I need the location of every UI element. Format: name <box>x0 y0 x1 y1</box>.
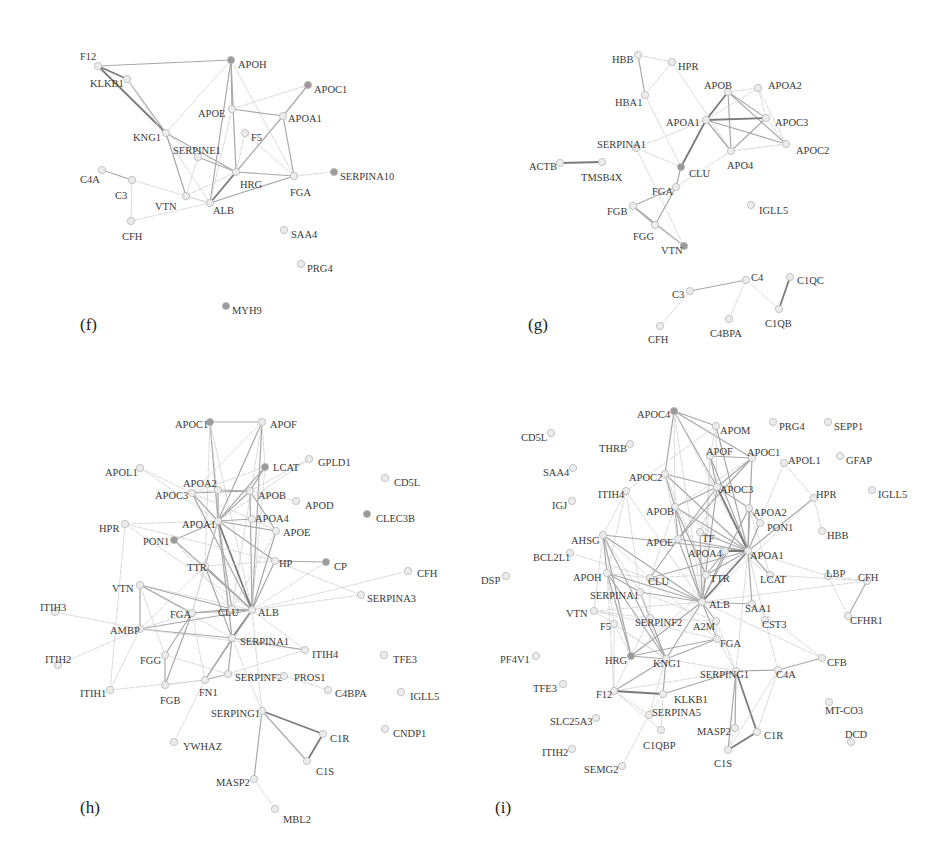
node-igll5 <box>868 486 875 493</box>
node-label-apoa2: APOA2 <box>768 80 802 91</box>
node-label-serpina3: SERPINA3 <box>367 593 416 604</box>
node-pon1 <box>170 536 177 543</box>
node-label-hpr: HPR <box>99 523 119 534</box>
node-label-serpina10: SERPINA10 <box>340 171 394 182</box>
node-label-ambp: AMBP <box>110 625 140 636</box>
node-label-gpld1: GPLD1 <box>318 457 351 468</box>
node-label-clu: CLU <box>218 607 239 618</box>
node-label-fgg: FGG <box>633 231 654 242</box>
node-label-fga: FGA <box>170 609 191 620</box>
node-label-c1s: C1S <box>714 758 732 769</box>
node-label-bcl2l1: BCL2L1 <box>533 552 570 563</box>
node-label-tf: TF <box>702 533 714 544</box>
node-label-fga: FGA <box>290 187 311 198</box>
node-apod <box>292 497 299 504</box>
node-label-itih4: ITIH4 <box>312 649 339 660</box>
node-hp <box>271 557 278 564</box>
panel-label: (g) <box>528 315 548 334</box>
node-hba1 <box>641 91 648 98</box>
edge-actb-tmsb4x <box>560 162 602 163</box>
node-klkb1 <box>659 690 666 697</box>
node-label-apoa4: APOA4 <box>255 513 290 524</box>
node-label-pon1: PON1 <box>143 536 169 547</box>
node-alb <box>698 598 705 605</box>
node-label-c1qbp: C1QBP <box>643 740 676 751</box>
node-label-apoc3: APOC3 <box>720 484 753 495</box>
node-label-igll5: IGLL5 <box>759 205 788 216</box>
node-gpld1 <box>305 455 312 462</box>
node-label-igll5: IGLL5 <box>878 489 907 500</box>
node-label-fgb: FGB <box>160 695 180 706</box>
node-semg2 <box>618 762 625 769</box>
node-label-apoe: APOE <box>283 527 310 538</box>
node-cndp1 <box>381 725 388 732</box>
node-label-saa4: SAA4 <box>291 229 318 240</box>
node-label-apom: APOM <box>720 425 751 436</box>
node-label-apob: APOB <box>646 506 674 517</box>
node-label-lbp: LBP <box>826 568 845 579</box>
node-c4bpa <box>324 686 331 693</box>
node-label-serping1: SERPING1 <box>211 708 260 719</box>
node-apoh <box>603 569 610 576</box>
node-ahsg <box>599 531 606 538</box>
node-label-apoh: APOH <box>238 59 267 70</box>
node-vtn <box>136 581 143 588</box>
node-label-serping1: SERPING1 <box>700 669 749 680</box>
node-serpina3 <box>357 591 364 598</box>
network-figure: F12APOHKLKB1APOC1APOEAPOA1KNG1F5SERPINE1… <box>0 0 947 848</box>
node-label-mbl2: MBL2 <box>283 814 311 825</box>
node-itih4 <box>301 646 308 653</box>
node-label-a2m: A2M <box>693 621 716 632</box>
node-f12 <box>94 62 101 69</box>
node-cfb <box>818 654 825 661</box>
node-apom <box>712 422 719 429</box>
node-label-fgg: FGG <box>140 655 161 666</box>
node-label-apoc2: APOC2 <box>796 145 829 156</box>
node-label-itih2: ITIH2 <box>45 654 71 665</box>
node-apoc1 <box>304 81 311 88</box>
node-label-c4a: C4A <box>80 174 100 185</box>
node-label-alb: ALB <box>709 599 730 610</box>
node-prg4 <box>297 260 304 267</box>
node-alb <box>248 606 255 613</box>
node-label-lcat: LCAT <box>273 462 300 473</box>
node-label-vtn: VTN <box>112 583 134 594</box>
node-fgg <box>651 221 658 228</box>
node-label-apof: APOF <box>270 419 297 430</box>
node-label-serpina1: SERPINA1 <box>240 636 289 647</box>
node-label-hrg: HRG <box>240 179 263 190</box>
node-label-c1qc: C1QC <box>797 275 824 286</box>
node-label-alb: ALB <box>258 607 279 618</box>
node-label-prg4: PRG4 <box>779 421 805 432</box>
node-label-apod: APOD <box>305 500 334 511</box>
node-hbb <box>634 51 641 58</box>
node-vtn <box>182 192 189 199</box>
node-apof <box>258 418 265 425</box>
node-label-serpina1: SERPINA1 <box>597 139 646 150</box>
node-igll5 <box>747 201 754 208</box>
node-label-thrb: THRB <box>599 443 627 454</box>
node-cd5l <box>381 474 388 481</box>
node-label-serpina5: SERPINA5 <box>652 707 701 718</box>
node-label-apoa2: APOA2 <box>753 507 787 518</box>
node-serpina10 <box>330 168 337 175</box>
node-itih1 <box>106 686 113 693</box>
node-c1qc <box>786 273 793 280</box>
node-label-cd5l: CD5L <box>521 432 547 443</box>
node-label-c1s: C1S <box>316 766 334 777</box>
node-label-prg4: PRG4 <box>307 263 333 274</box>
node-label-cfh: CFH <box>648 334 669 345</box>
node-label-apoa4: APOA4 <box>688 548 723 559</box>
node-thrb <box>626 440 633 447</box>
node-tfe3 <box>559 680 566 687</box>
node-label-vtn: VTN <box>155 201 177 212</box>
node-label-f12: F12 <box>80 51 96 62</box>
node-apoe <box>674 535 681 542</box>
node-label-ahsg: AHSG <box>571 535 600 546</box>
node-serpinf2 <box>224 670 231 677</box>
node-label-hpr: HPR <box>678 61 698 72</box>
node-apoe <box>272 527 279 534</box>
node-clec3b <box>363 510 370 517</box>
node-label-cfb: CFB <box>827 657 847 668</box>
node-label-tfe3: TFE3 <box>393 654 417 665</box>
